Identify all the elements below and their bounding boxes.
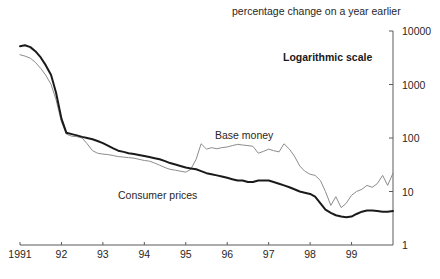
x-axis-tick-label: 99: [346, 249, 358, 260]
x-axis-tick-label: 95: [180, 249, 192, 260]
series-label-consumer-prices: Consumer prices: [118, 190, 197, 201]
series-label-base-money: Base money: [215, 130, 273, 141]
y-axis-tick-label: 1000: [402, 79, 425, 90]
x-axis-tick-label: 98: [304, 249, 316, 260]
series-line-base-money: [20, 55, 393, 208]
x-axis-tick-label: 96: [221, 249, 233, 260]
series-line-consumer-prices: [20, 45, 393, 217]
x-axis-tick-label: 92: [56, 249, 68, 260]
x-axis-tick-label: 94: [138, 249, 150, 260]
y-axis-tick-label: 1: [402, 240, 408, 251]
x-axis-tick-label: 97: [263, 249, 275, 260]
chart-container: percentage change on a year earlier Loga…: [0, 0, 440, 279]
y-axis-tick-label: 10000: [402, 26, 431, 37]
x-axis-tick-label: 1991: [8, 249, 31, 260]
y-axis-tick-label: 10: [402, 186, 414, 197]
y-axis-tick-label: 100: [402, 133, 420, 144]
x-axis-tick-label: 93: [97, 249, 109, 260]
